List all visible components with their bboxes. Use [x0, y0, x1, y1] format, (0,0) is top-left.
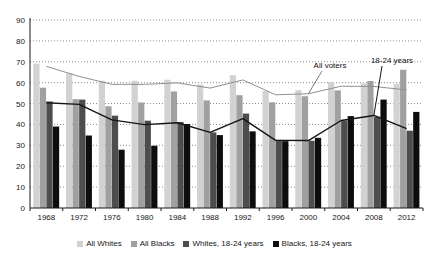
- bar: [413, 112, 419, 208]
- x-tick-label: 1988: [201, 213, 219, 222]
- legend-swatch-whites-18-24: [183, 241, 189, 247]
- voter-turnout-chart: 9080706050403020100 19681972197619801984…: [0, 0, 429, 234]
- bar: [407, 131, 413, 208]
- bar: [46, 101, 52, 208]
- bar: [204, 100, 210, 208]
- bar: [138, 103, 144, 208]
- legend-swatch-blacks-18-24: [273, 241, 279, 247]
- y-tick-label: 10: [16, 183, 25, 192]
- bar: [249, 131, 255, 208]
- y-tick-label: 80: [16, 37, 25, 46]
- x-tick-label: 2004: [332, 213, 350, 222]
- y-tick-label: 90: [16, 16, 25, 25]
- bar: [151, 146, 157, 208]
- bar: [394, 84, 400, 208]
- bar: [243, 114, 249, 208]
- x-tick-label: 1992: [234, 213, 252, 222]
- bar: [295, 90, 301, 208]
- bar: [367, 81, 373, 208]
- bar: [315, 138, 321, 208]
- legend-item-all-whites: All Whites: [77, 240, 122, 248]
- x-tick-label: 2000: [299, 213, 317, 222]
- annotation-all-voters-label: All voters: [314, 61, 347, 70]
- chart-legend: All Whites All Blacks Whites, 18-24 year…: [0, 236, 429, 252]
- bar: [66, 73, 72, 208]
- legend-label-whites-18-24: Whites, 18-24 years: [192, 240, 263, 248]
- bar: [230, 75, 236, 208]
- x-tick-label: 1972: [70, 213, 88, 222]
- y-tick-label: 40: [16, 120, 25, 129]
- legend-label-blacks-18-24: Blacks, 18-24 years: [282, 240, 352, 248]
- bar: [269, 102, 275, 208]
- y-tick-label: 20: [16, 162, 25, 171]
- bar: [145, 121, 151, 208]
- y-tick-label: 0: [21, 204, 26, 213]
- bar: [79, 100, 85, 208]
- chart-plot-area: 9080706050403020100 19681972197619801984…: [0, 0, 429, 234]
- bar: [308, 141, 314, 208]
- bar: [276, 140, 282, 208]
- legend-swatch-all-whites: [77, 241, 83, 247]
- x-tick-label: 1968: [37, 213, 55, 222]
- bar: [177, 122, 183, 208]
- bar: [33, 64, 39, 208]
- x-tick-label: 1976: [103, 213, 121, 222]
- bar: [335, 90, 341, 208]
- bar: [302, 96, 308, 208]
- bar: [361, 84, 367, 209]
- bar: [53, 127, 59, 208]
- bar: [348, 116, 354, 208]
- bar: [118, 150, 124, 208]
- y-tick-label: 30: [16, 141, 25, 150]
- bar: [132, 81, 138, 208]
- y-tick-label: 50: [16, 100, 25, 109]
- bar: [99, 81, 105, 208]
- bar: [112, 116, 118, 208]
- bar: [86, 136, 92, 208]
- x-tick-label: 1980: [136, 213, 154, 222]
- annotation-18-24-years-label: 18-24 years: [371, 56, 413, 65]
- chart-root: 9080706050403020100 19681972197619801984…: [0, 0, 429, 258]
- bar: [171, 91, 177, 208]
- y-axis-tick-labels: 9080706050403020100: [16, 16, 25, 213]
- bar: [105, 106, 111, 208]
- bar: [73, 99, 79, 208]
- legend-item-blacks-18-24: Blacks, 18-24 years: [273, 240, 352, 248]
- bar: [184, 124, 190, 208]
- legend-swatch-all-blacks: [131, 241, 137, 247]
- bar: [341, 121, 347, 208]
- annotation-all-voters-leader: [308, 71, 322, 94]
- bar: [236, 95, 242, 208]
- y-tick-label: 60: [16, 79, 25, 88]
- bar: [282, 141, 288, 208]
- legend-item-whites-18-24: Whites, 18-24 years: [183, 240, 263, 248]
- bar: [210, 132, 216, 208]
- x-tick-label: 1996: [267, 213, 285, 222]
- bar: [40, 88, 46, 208]
- legend-label-all-whites: All Whites: [86, 240, 122, 248]
- bar: [400, 70, 406, 208]
- legend-item-all-blacks: All Blacks: [131, 240, 175, 248]
- bar: [197, 85, 203, 208]
- bar-series-group: [33, 64, 419, 208]
- x-tick-label: 1984: [168, 213, 186, 222]
- bar: [217, 135, 223, 208]
- bar: [374, 117, 380, 208]
- bar: [164, 80, 170, 208]
- x-tick-label: 2008: [365, 213, 383, 222]
- legend-label-all-blacks: All Blacks: [140, 240, 175, 248]
- bar: [328, 82, 334, 208]
- x-axis-tick-labels: 1968197219761980198419881992199620002004…: [30, 208, 423, 222]
- x-tick-label: 2012: [398, 213, 416, 222]
- y-tick-label: 70: [16, 58, 25, 67]
- bar: [263, 91, 269, 208]
- bar: [380, 100, 386, 208]
